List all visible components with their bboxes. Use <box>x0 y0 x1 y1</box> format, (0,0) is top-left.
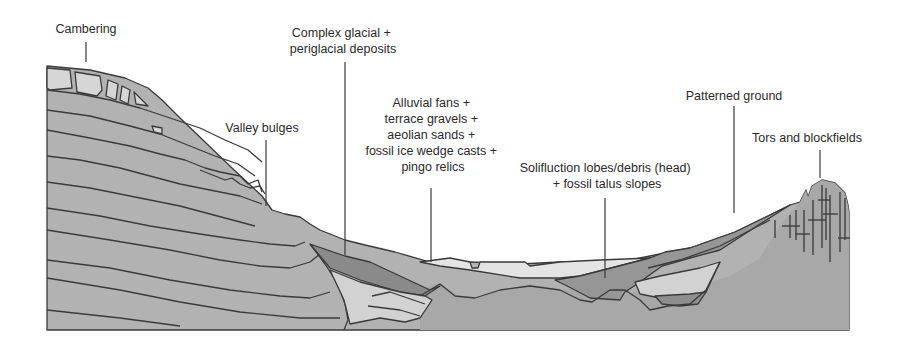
label-complex-deposits: Complex glacial + periglacial deposits <box>290 26 396 56</box>
periglacial-cross-section: Cambering Complex glacial + periglacial … <box>0 0 909 357</box>
label-valley-bulges: Valley bulges <box>225 121 298 135</box>
label-solifluction: Solifluction lobes/debris (head) + fossi… <box>520 161 694 191</box>
valley-bedrock <box>420 180 849 330</box>
label-patterned-ground: Patterned ground <box>686 89 783 103</box>
label-alluvial: Alluvial fans + terrace gravels + aeolia… <box>365 96 500 174</box>
label-cambering: Cambering <box>55 22 116 36</box>
label-tors: Tors and blockfields <box>752 131 862 145</box>
